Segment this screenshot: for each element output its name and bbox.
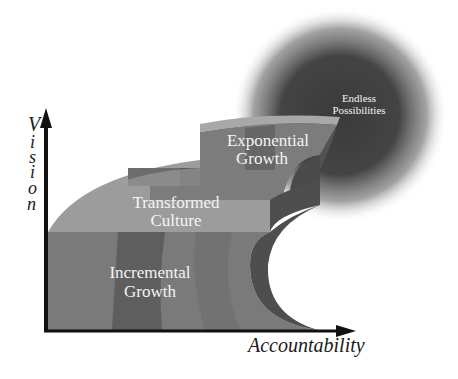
x-axis-label: Accountability (246, 334, 365, 357)
y-axis-letter: n (27, 194, 36, 214)
diagram-canvas: V i s i o n Accountability Incremental G… (0, 0, 458, 379)
growth-diagram: V i s i o n Accountability Incremental G… (0, 0, 458, 379)
transformed-label-line1: Transformed (132, 193, 220, 212)
exponential-label-line1: Exponential (227, 131, 309, 150)
incremental-label-line1: Incremental (109, 263, 190, 282)
exponential-label-line2: Growth (236, 149, 288, 168)
goal-label-line1: Endless (342, 92, 376, 104)
goal-label-line2: Possibilities (332, 104, 385, 116)
incremental-label-line2: Growth (124, 282, 176, 301)
transformed-label-line2: Culture (151, 211, 202, 230)
